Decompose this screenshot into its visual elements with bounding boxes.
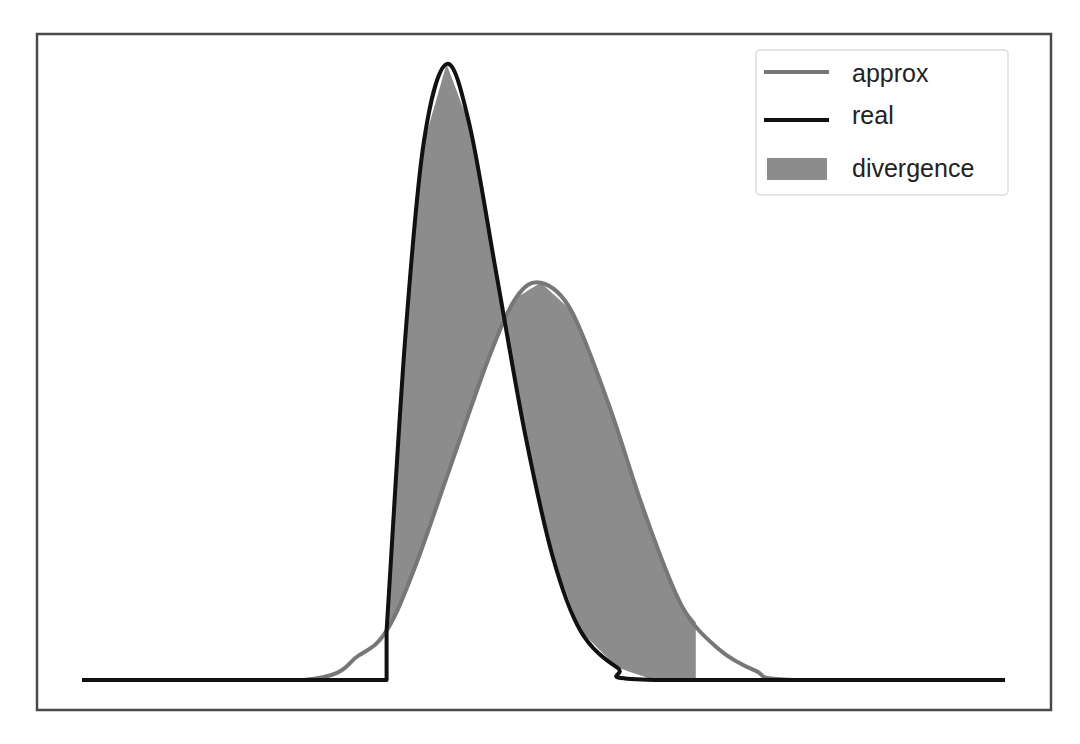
legend-real-label: real xyxy=(852,101,894,129)
divergence-chart: approx real divergence xyxy=(0,0,1080,744)
legend-divergence-label: divergence xyxy=(852,154,974,182)
legend: approx real divergence xyxy=(756,50,1008,195)
legend-divergence-swatch xyxy=(767,158,827,180)
legend-approx-label: approx xyxy=(852,59,929,87)
